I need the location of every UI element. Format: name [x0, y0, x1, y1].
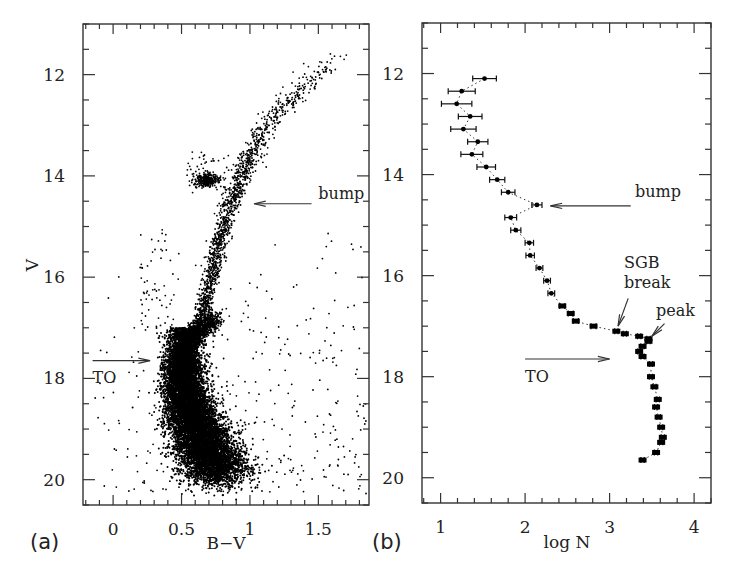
lf-data-point [657, 439, 665, 445]
lf-data-point [477, 164, 496, 170]
lf-data-point [652, 449, 660, 455]
lf-data-point [468, 139, 488, 145]
lf-data-point [526, 252, 534, 258]
panel-a-xlabel: B−V [206, 533, 246, 553]
y-tick-label: 20 [43, 470, 65, 490]
y-tick-label: 16 [43, 267, 65, 287]
lf-data-point [461, 151, 483, 157]
panel-a-cmd: 00.511.51214161820 bumpTO B−V V (a) [22, 24, 369, 554]
y-tick-label: 18 [43, 368, 65, 388]
annotation-label: break [624, 273, 671, 292]
lf-data-point [525, 240, 533, 246]
panel-b-annotations: bumpSGBbreakpeakTO [525, 182, 695, 385]
lf-data-point [473, 76, 497, 82]
panel-a-ylabel: V [22, 258, 42, 272]
lf-data-point [639, 457, 647, 463]
lf-data-point [635, 348, 643, 354]
lf-data-point [548, 290, 555, 296]
annotation-label: bump [318, 184, 364, 203]
lf-data-point [490, 177, 505, 183]
x-tick-label: 1 [245, 519, 256, 539]
lf-data-point [650, 384, 658, 390]
lf-data-point [655, 414, 663, 420]
panel-b-label: (b) [372, 530, 402, 554]
lf-data-point [441, 101, 471, 107]
annotation-label: bump [635, 182, 681, 201]
panel-b-frame [422, 23, 711, 503]
annotation-label: SGB [624, 253, 660, 272]
lf-data-point [639, 343, 647, 349]
lf-data-point [647, 361, 655, 367]
lf-data-point [572, 318, 580, 324]
lf-data-point [544, 278, 551, 284]
lf-data-point [505, 215, 517, 221]
lf-data-point [590, 323, 598, 329]
lf-data-point [647, 374, 655, 380]
panel-b-luminosity-function: 12341214161820 bumpSGBbreakpeakTO log N … [372, 23, 711, 554]
x-tick-label: 4 [689, 517, 700, 537]
lf-data-point [639, 353, 647, 359]
panel-a-annotations: bumpTO [93, 184, 365, 388]
y-tick-label: 20 [382, 468, 404, 488]
lf-data-point [644, 338, 652, 344]
x-tick-label: 2 [520, 517, 531, 537]
lf-data-point [558, 303, 566, 309]
x-tick-label: 0 [108, 519, 119, 539]
annotation-label: TO [525, 367, 549, 386]
y-tick-label: 14 [382, 165, 404, 185]
y-tick-label: 16 [382, 266, 404, 286]
panel-a-label: (a) [30, 530, 59, 554]
lf-data-point [621, 331, 629, 337]
figure: 00.511.51214161820 bumpTO B−V V (a) 1234… [0, 0, 731, 576]
lf-data-point [511, 227, 521, 233]
x-tick-label: 3 [604, 517, 615, 537]
lf-data-point [536, 265, 543, 271]
lf-data-point [657, 424, 665, 430]
annotation-arrow [618, 298, 628, 326]
lf-data-point [448, 88, 475, 94]
lf-data-point [612, 328, 620, 334]
x-tick-label: 0.5 [168, 519, 195, 539]
lf-data-point [654, 396, 662, 402]
annotation-label: TO [93, 368, 117, 387]
x-tick-label: 1 [435, 517, 446, 537]
cmd-scatter-points [94, 53, 367, 501]
y-tick-label: 14 [43, 166, 65, 186]
lf-data-point [458, 113, 482, 119]
annotation-label: peak [656, 301, 695, 320]
x-tick-label: 1.5 [305, 519, 332, 539]
y-tick-label: 12 [382, 64, 404, 84]
lf-data-point [652, 404, 660, 410]
lf-data-point [451, 126, 476, 132]
lf-data-point [635, 333, 643, 339]
panel-b-xlabel: log N [544, 532, 591, 552]
y-tick-label: 18 [382, 367, 404, 387]
lf-data-point [567, 311, 575, 317]
y-tick-label: 12 [43, 65, 65, 85]
